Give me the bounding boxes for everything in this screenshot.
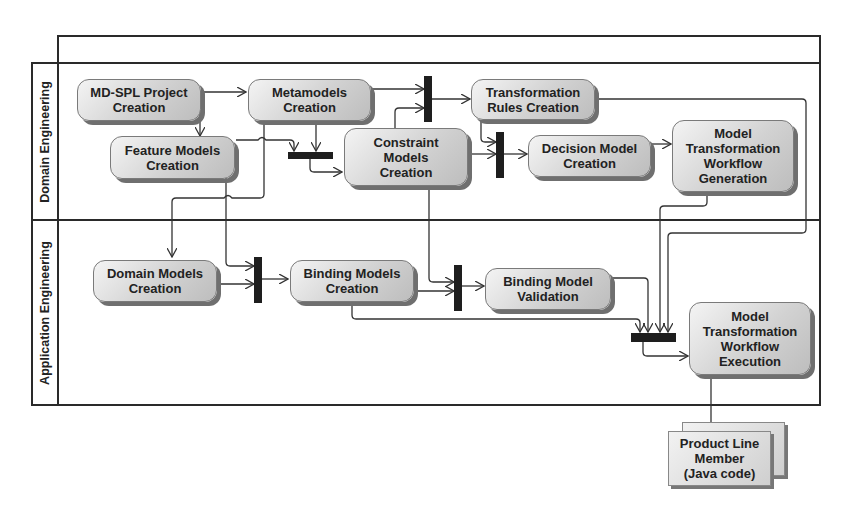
activity-diagram: Domain Engineering Application Engineeri…: [0, 0, 849, 516]
activity-metamodels-creation: Metamodels Creation: [248, 79, 371, 121]
join-bar-binding-models: [254, 257, 262, 303]
activity-binding-models-creation: Binding Models Creation: [290, 260, 414, 302]
activity-mtw-execution: Model Transformation Workflow Execution: [689, 302, 811, 375]
activity-transformation-rules-creation: Transformation Rules Creation: [471, 79, 595, 120]
activity-mtw-generation: Model Transformation Workflow Generation: [672, 120, 794, 192]
activity-feature-models-creation: Feature Models Creation: [110, 136, 235, 179]
join-bar-binding-validation: [454, 265, 462, 311]
activity-decision-model-creation: Decision Model Creation: [528, 135, 651, 177]
join-bar-workflow-execution: [631, 333, 676, 342]
activity-constraint-models-creation: Constraint Models Creation: [344, 128, 468, 186]
join-bar-constraint-models: [288, 152, 333, 159]
join-bar-decision-model: [496, 132, 504, 178]
activity-binding-model-validation: Binding Model Validation: [485, 268, 611, 310]
activity-domain-models-creation: Domain Models Creation: [93, 260, 217, 302]
artifact-product-line-member: Product Line Member (Java code): [668, 431, 771, 486]
fork-bar-transformation-rules: [424, 76, 432, 122]
activity-mdspl-project-creation: MD-SPL Project Creation: [77, 79, 201, 121]
